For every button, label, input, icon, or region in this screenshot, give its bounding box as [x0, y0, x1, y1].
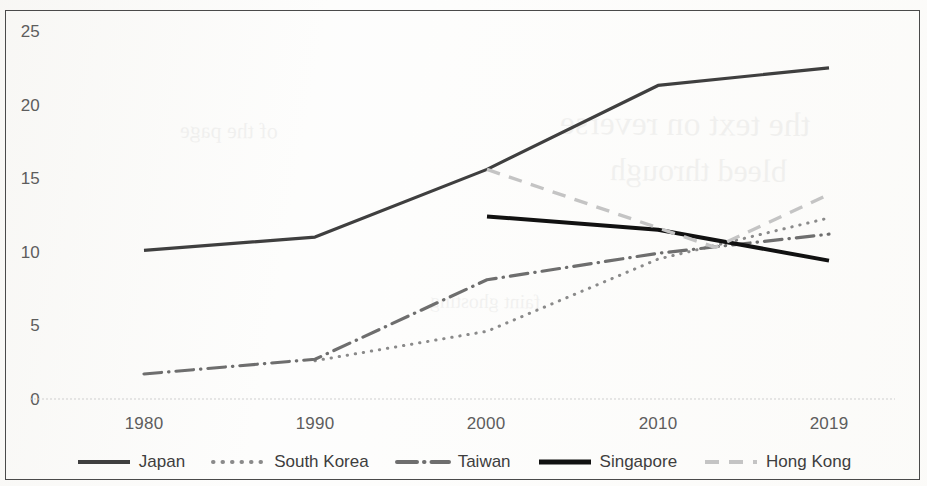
series-line-hong-kong	[487, 169, 829, 247]
legend-item-taiwan[interactable]: Taiwan	[395, 452, 511, 472]
legend-label-hong-kong: Hong Kong	[766, 452, 851, 472]
legend-item-hong-kong[interactable]: Hong Kong	[703, 452, 851, 472]
legend-swatch-japan	[76, 455, 132, 469]
legend-swatch-singapore	[537, 455, 593, 469]
series-line-taiwan	[144, 234, 829, 374]
legend-swatch-south-korea	[211, 455, 267, 469]
legend-label-south-korea: South Korea	[274, 452, 369, 472]
legend-item-south-korea[interactable]: South Korea	[211, 452, 369, 472]
chart-legend: Japan South Korea Taiwan Singapore Hong …	[0, 452, 927, 472]
chart-page: the text on reverse bleed through of the…	[0, 0, 927, 486]
legend-swatch-hong-kong	[703, 455, 759, 469]
legend-label-japan: Japan	[139, 452, 185, 472]
legend-swatch-taiwan	[395, 455, 451, 469]
legend-label-singapore: Singapore	[600, 452, 678, 472]
series-line-japan	[144, 68, 829, 251]
plot-area	[0, 0, 927, 486]
series-line-south-korea	[315, 218, 829, 361]
series-layer	[144, 68, 829, 374]
legend-item-japan[interactable]: Japan	[76, 452, 185, 472]
legend-label-taiwan: Taiwan	[458, 452, 511, 472]
legend-item-singapore[interactable]: Singapore	[537, 452, 678, 472]
